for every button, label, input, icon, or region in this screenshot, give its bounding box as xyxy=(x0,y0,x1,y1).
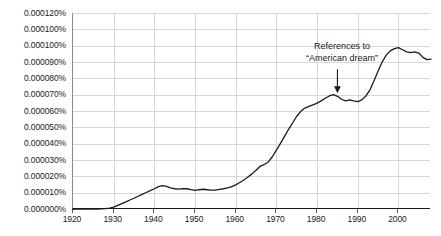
x-axis-tick-label: 1970 xyxy=(255,214,295,224)
annotation-callout: References to “American dream” xyxy=(286,41,398,64)
annotation-line-1: References to xyxy=(286,41,398,53)
y-axis-tick-label: 0.000030% xyxy=(24,156,66,165)
x-axis-tick-label: 1940 xyxy=(133,214,173,224)
x-axis-tick-label: 1950 xyxy=(174,214,214,224)
y-axis-tick-label: 0.000000% xyxy=(24,205,66,214)
x-axis-tick-mark xyxy=(397,209,398,213)
y-axis-tick-label: 0.000100% xyxy=(24,41,66,50)
x-axis-tick-mark xyxy=(153,209,154,213)
annotation-line-2: “American dream” xyxy=(286,53,398,65)
x-axis-tick-mark xyxy=(275,209,276,213)
y-axis-tick-label: 0.000090% xyxy=(24,58,66,67)
y-axis-tick-label: 0.000100% xyxy=(24,25,66,34)
x-axis-tick-mark xyxy=(194,209,195,213)
y-axis-tick-label: 0.000020% xyxy=(24,172,66,181)
y-axis-tick-label: 0.000080% xyxy=(24,74,66,83)
x-axis-tick-label: 1990 xyxy=(337,214,377,224)
ngram-chart-page: 0.000120%0.000100%0.000100%0.000090%0.00… xyxy=(0,0,441,236)
x-axis-tick-mark xyxy=(316,209,317,213)
x-axis-tick-label: 1960 xyxy=(215,214,255,224)
y-axis-tick-label: 0.000060% xyxy=(24,107,66,116)
y-axis-tick-label: 0.000070% xyxy=(24,90,66,99)
x-axis-tick-label: 1920 xyxy=(52,214,92,224)
down-arrow-head xyxy=(334,86,341,93)
y-axis-tick-label: 0.000010% xyxy=(24,188,66,197)
x-axis-tick-label: 1980 xyxy=(296,214,336,224)
y-axis-tick-label: 0.000040% xyxy=(24,139,66,148)
x-axis-tick-mark xyxy=(235,209,236,213)
y-axis-tick-label: 0.000050% xyxy=(24,123,66,132)
x-axis-tick-mark xyxy=(357,209,358,213)
y-axis-tick-label: 0.000120% xyxy=(24,9,66,18)
x-axis-tick-label: 1930 xyxy=(93,214,133,224)
x-axis-tick-label: 2000 xyxy=(377,214,417,224)
x-axis-tick-mark xyxy=(113,209,114,213)
y-axis-label-group: 0.000120%0.000100%0.000100%0.000090%0.00… xyxy=(0,0,66,236)
